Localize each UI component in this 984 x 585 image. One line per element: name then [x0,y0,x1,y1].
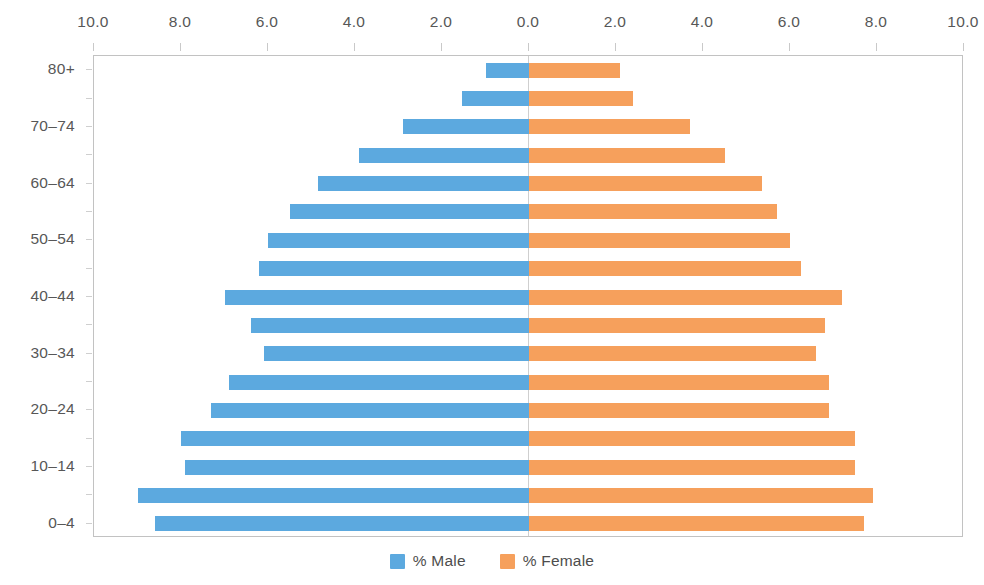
x-axis-tick-10: 10.0 [933,0,984,30]
y-axis-tick-mark [86,296,92,297]
bar-male [290,204,529,219]
population-pyramid-chart: 10.08.06.04.02.00.02.04.06.08.010.0 80+7… [0,0,984,585]
bar-female [529,91,633,106]
square-swatch-icon [390,554,405,569]
bar-female [529,460,855,475]
bar-female [529,318,825,333]
bar-female [529,204,777,219]
x-axis-tick-9: 8.0 [846,0,906,30]
y-axis-tick-label: 40–44 [0,287,75,305]
x-axis-tick-label: 6.0 [237,0,297,30]
x-axis-tick-label: 0.0 [498,0,558,30]
bar-female [529,375,829,390]
legend-label: % Male [413,552,466,570]
y-axis-tick-mark [86,183,92,184]
chart-legend: % Male% Female [0,552,984,570]
bar-female [529,290,842,305]
bar-male [259,261,529,276]
y-axis-tick-mark [86,494,92,495]
bar-female [529,488,873,503]
y-axis-tick-mark [86,239,92,240]
y-axis-tick-mark [86,268,92,269]
bar-row [94,460,962,475]
bar-row [94,261,962,276]
x-axis-tick-mark [702,43,703,51]
y-axis-tick-label: 60–64 [0,174,75,192]
bar-male [403,119,529,134]
bar-row [94,488,962,503]
bar-female [529,516,864,531]
legend-item[interactable]: % Male [390,552,466,570]
bar-female [529,261,801,276]
plot-area [93,55,963,537]
bar-male [181,431,529,446]
square-swatch-icon [500,554,515,569]
x-axis-tick-0: 10.0 [63,0,123,30]
legend-item[interactable]: % Female [500,552,594,570]
bar-female [529,148,725,163]
y-axis-tick-label: 10–14 [0,457,75,475]
bar-row [94,176,962,191]
x-axis-tick-mark [354,43,355,51]
bar-male [268,233,529,248]
x-axis-tick-3: 4.0 [324,0,384,30]
y-axis-tick-mark [86,211,92,212]
x-axis-tick-label: 8.0 [150,0,210,30]
x-axis-tick-8: 6.0 [759,0,819,30]
y-axis-tick-mark [86,353,92,354]
x-axis-tick-2: 6.0 [237,0,297,30]
x-axis-tick-mark [615,43,616,51]
x-axis-tick-label: 10.0 [63,0,123,30]
bar-female [529,403,829,418]
bar-row [94,119,962,134]
bar-male [318,176,529,191]
bar-row [94,204,962,219]
bar-row [94,346,962,361]
x-axis-tick-mark [876,43,877,51]
y-axis-tick-label: 50–54 [0,230,75,248]
x-axis-tick-mark [963,43,964,51]
bar-female [529,346,816,361]
bar-female [529,176,762,191]
bar-female [529,431,855,446]
x-axis-tick-6: 2.0 [585,0,645,30]
bar-row [94,233,962,248]
y-axis-tick-mark [86,409,92,410]
x-axis-tick-label: 4.0 [672,0,732,30]
x-axis-tick-7: 4.0 [672,0,732,30]
x-axis-tick-mark [789,43,790,51]
y-axis-tick-label: 20–24 [0,400,75,418]
x-axis-tick-mark [528,43,529,51]
x-axis-tick-label: 2.0 [411,0,471,30]
bar-male [185,460,529,475]
y-axis-tick-mark [86,69,92,70]
bar-row [94,148,962,163]
x-axis-tick-label: 10.0 [933,0,984,30]
bar-male [229,375,529,390]
bar-male [462,91,529,106]
x-axis-tick-label: 4.0 [324,0,384,30]
y-axis-tick-label: 0–4 [0,514,75,532]
bar-row [94,431,962,446]
y-axis-tick-mark [86,523,92,524]
y-axis-tick-label: 80+ [0,60,75,78]
bar-female [529,119,690,134]
bar-male [251,318,529,333]
legend-label: % Female [523,552,594,570]
y-axis-tick-mark [86,126,92,127]
bar-male [138,488,530,503]
bar-row [94,403,962,418]
bar-female [529,63,620,78]
x-axis-tick-5: 0.0 [498,0,558,30]
bar-male [486,63,530,78]
bar-male [264,346,529,361]
y-axis: 80+70–7460–6450–5440–4430–3420–2410–140–… [0,55,85,537]
x-axis-top: 10.08.06.04.02.00.02.04.06.08.010.0 [93,0,963,55]
y-axis-tick-label: 70–74 [0,117,75,135]
bar-row [94,290,962,305]
bar-row [94,375,962,390]
bar-male [155,516,529,531]
y-axis-tick-mark [86,98,92,99]
y-axis-tick-mark [86,438,92,439]
x-axis-tick-mark [93,43,94,51]
